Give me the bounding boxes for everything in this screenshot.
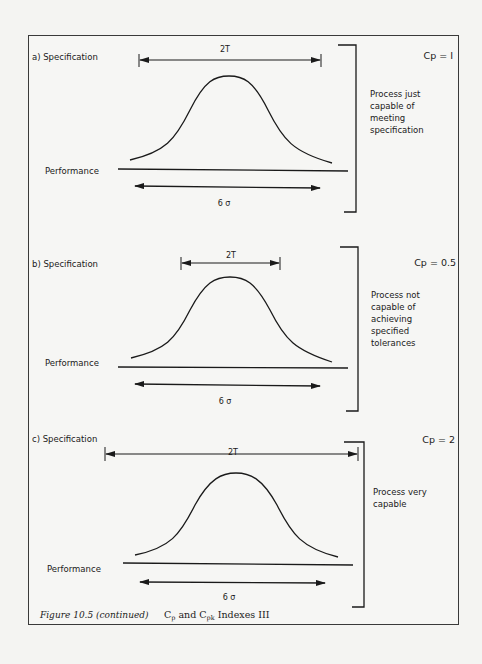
sigma-arrow	[135, 186, 320, 188]
cp-value: Cp = I	[424, 50, 453, 61]
svg-text:Process not: Process not	[371, 290, 421, 300]
panel-b: b) Specification 2T Performance 6 σ Cp =…	[32, 247, 456, 411]
performance-axis	[118, 367, 348, 368]
svg-text:Process just: Process just	[370, 89, 421, 99]
panel-a: a) Specification 2T Performance 6 σ Cp =…	[32, 45, 453, 212]
caption-title: CpandCpkIndexes III	[164, 609, 270, 622]
sigma-arrow	[140, 582, 325, 583]
svg-text:Process very: Process very	[373, 487, 427, 497]
svg-text:specified: specified	[371, 326, 409, 336]
description: Process not capable of achieving specifi…	[371, 290, 421, 348]
bracket	[344, 442, 364, 607]
tolerance-arrow	[139, 54, 321, 67]
figure-caption: Figure 10.5 (continued) CpandCpkIndexes …	[39, 609, 270, 622]
panel-c: c) Specification 2T Performance 6 σ Cp =…	[32, 434, 455, 607]
performance-label: Performance	[45, 166, 99, 176]
sigma-label: 6 σ	[219, 397, 232, 406]
spec-label: a) Specification	[32, 52, 98, 62]
sigma-label: 6 σ	[223, 593, 236, 602]
normal-curve	[131, 277, 332, 362]
description: Process very capable	[373, 487, 427, 509]
svg-text:tolerances: tolerances	[371, 338, 416, 348]
bracket	[340, 247, 358, 411]
tolerance-label: 2T	[228, 448, 238, 457]
performance-axis	[123, 563, 353, 565]
cp-value: Cp = 2	[422, 434, 455, 445]
svg-text:capable of: capable of	[371, 302, 416, 312]
svg-text:capable: capable	[373, 499, 406, 509]
svg-text:specification: specification	[370, 125, 424, 135]
performance-label: Performance	[45, 358, 99, 368]
bracket	[338, 45, 356, 212]
caption-label: Figure 10.5 (continued)	[39, 610, 149, 620]
svg-text:meeting: meeting	[370, 113, 405, 123]
spec-label: b) Specification	[32, 259, 98, 269]
performance-axis	[118, 169, 348, 171]
svg-text:achieving: achieving	[371, 314, 412, 324]
normal-curve	[130, 76, 332, 163]
spec-label: c) Specification	[32, 434, 97, 444]
tolerance-label: 2T	[220, 45, 230, 54]
tolerance-label: 2T	[226, 251, 236, 260]
sigma-label: 6 σ	[218, 199, 231, 208]
sigma-arrow	[135, 384, 320, 386]
cp-capability-diagram: a) Specification 2T Performance 6 σ Cp =…	[0, 0, 482, 664]
description: Process just capable of meeting specific…	[370, 89, 424, 135]
svg-text:capable of: capable of	[370, 101, 415, 111]
performance-label: Performance	[47, 564, 101, 574]
cp-value: Cp = 0.5	[414, 257, 456, 268]
normal-curve	[135, 473, 338, 557]
